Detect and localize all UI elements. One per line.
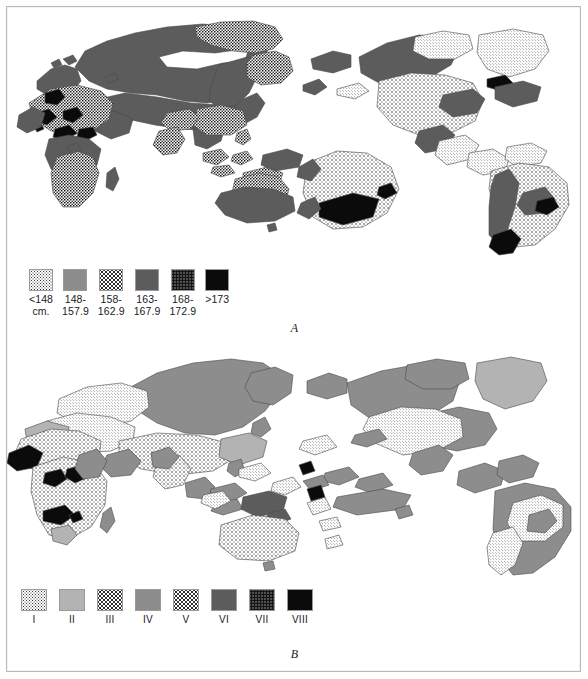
legend-b-item-1[interactable]: I bbox=[21, 589, 47, 626]
legend-b-label-5: V bbox=[183, 614, 190, 626]
map-b-svg bbox=[7, 343, 582, 583]
legend-b-label-8: VIII bbox=[292, 614, 308, 626]
swatch-coarse-stipple-alt-icon bbox=[173, 589, 199, 611]
world-map-classification bbox=[7, 343, 582, 583]
legend-a-item-1[interactable]: <148 cm. bbox=[29, 269, 53, 317]
region-greenland-stipple bbox=[477, 29, 549, 77]
region-madagascar bbox=[106, 167, 119, 191]
figure-frame: <148 cm. 148- 157.9 158- 162.9 163- 167.… bbox=[6, 6, 581, 672]
swatch-coarse-stipple-icon bbox=[99, 269, 123, 291]
swatch-fine-stipple-icon bbox=[21, 589, 47, 611]
swatch-black-icon bbox=[205, 269, 229, 291]
region-pacific-b-stipple-04 bbox=[325, 535, 343, 549]
legend-b-label-4: IV bbox=[143, 614, 153, 626]
legend-a: <148 cm. 148- 157.9 158- 162.9 163- 167.… bbox=[29, 269, 229, 317]
legend-a-label-5: 168- 172.9 bbox=[169, 294, 196, 317]
region-madagascar-b bbox=[100, 507, 115, 533]
legend-a-item-2[interactable]: 148- 157.9 bbox=[62, 269, 89, 317]
region-southern-africa bbox=[51, 151, 99, 207]
region-pacific-b-black-01 bbox=[299, 461, 315, 475]
swatch-mid-gray-icon bbox=[135, 589, 161, 611]
legend-b-label-6: VI bbox=[219, 614, 229, 626]
region-canada-arctic-stipple bbox=[413, 31, 473, 59]
region-australia-stipple-b bbox=[219, 515, 299, 561]
swatch-dense-stipple-icon bbox=[171, 269, 195, 291]
region-pacific-b-midgray-02 bbox=[323, 467, 359, 485]
swatch-dark-gray-icon bbox=[135, 269, 159, 291]
region-pacific-islet-a bbox=[303, 79, 327, 95]
panel-a: <148 cm. 148- 157.9 158- 162.9 163- 167.… bbox=[7, 7, 582, 343]
region-tasmania-b bbox=[263, 561, 275, 571]
region-pacific-islet-b bbox=[337, 83, 369, 99]
legend-a-label-1: <148 cm. bbox=[29, 294, 53, 317]
region-arctic-stipple bbox=[247, 51, 293, 85]
panel-b: I II III IV V VI bbox=[7, 343, 582, 671]
swatch-mid-gray-icon bbox=[63, 269, 87, 291]
region-northeast-asia bbox=[245, 367, 293, 405]
legend-a-item-6[interactable]: >173 bbox=[205, 269, 229, 306]
legend-b-label-2: II bbox=[69, 614, 75, 626]
swatch-dark-gray-icon bbox=[211, 589, 237, 611]
swatch-black-icon bbox=[287, 589, 313, 611]
panel-b-letter: B bbox=[7, 647, 582, 662]
region-pacific-b-stipple-01 bbox=[299, 435, 337, 455]
region-caribbean-b bbox=[497, 455, 539, 483]
region-papua-gray bbox=[261, 149, 303, 171]
region-caribbean-stipple bbox=[505, 143, 547, 167]
region-indonesia-02 bbox=[231, 151, 253, 165]
region-alaska-gray bbox=[311, 51, 351, 73]
legend-b-label-7: VII bbox=[255, 614, 268, 626]
region-canada-arctic-b bbox=[405, 359, 469, 389]
region-indonesia-03 bbox=[211, 165, 235, 177]
map-a-svg bbox=[7, 7, 582, 259]
region-tasmania bbox=[267, 223, 277, 232]
swatch-dense-stipple-icon bbox=[249, 589, 275, 611]
region-pacific-isl-b bbox=[271, 477, 301, 495]
legend-a-item-5[interactable]: 168- 172.9 bbox=[169, 269, 196, 317]
region-greenland-b bbox=[475, 357, 547, 409]
swatch-fine-stipple-icon bbox=[29, 269, 53, 291]
legend-a-item-4[interactable]: 163- 167.9 bbox=[134, 269, 161, 317]
region-indonesia-01 bbox=[203, 149, 229, 165]
legend-b-item-7[interactable]: VII bbox=[249, 589, 275, 626]
legend-a-item-3[interactable]: 158- 162.9 bbox=[98, 269, 125, 317]
legend-b-item-6[interactable]: VI bbox=[211, 589, 237, 626]
region-pacific-b-stipple-03 bbox=[319, 517, 341, 531]
legend-b-item-3[interactable]: III bbox=[97, 589, 123, 626]
legend-b: I II III IV V VI bbox=[21, 589, 313, 626]
legend-b-item-5[interactable]: V bbox=[173, 589, 199, 626]
legend-a-label-4: 163- 167.9 bbox=[134, 294, 161, 317]
legend-b-item-4[interactable]: IV bbox=[135, 589, 161, 626]
world-map-stature-distribution bbox=[7, 7, 582, 259]
legend-a-label-2: 148- 157.9 bbox=[62, 294, 89, 317]
legend-b-item-8[interactable]: VIII bbox=[287, 589, 313, 626]
region-japan-midgray bbox=[251, 417, 271, 437]
region-alaska-b bbox=[307, 373, 347, 399]
region-asia-east-lightgray bbox=[219, 433, 267, 465]
region-island-01 bbox=[63, 55, 77, 65]
region-micronesia-stipple bbox=[239, 463, 271, 481]
swatch-light-gray-icon bbox=[59, 589, 85, 611]
region-india-stipple bbox=[153, 127, 185, 155]
legend-b-item-2[interactable]: II bbox=[59, 589, 85, 626]
legend-a-label-6: >173 bbox=[205, 294, 229, 306]
legend-a-label-3: 158- 162.9 bbox=[98, 294, 125, 317]
swatch-coarse-stipple-icon bbox=[97, 589, 123, 611]
legend-b-label-1: I bbox=[32, 614, 35, 626]
region-philippines bbox=[235, 129, 251, 145]
legend-b-label-3: III bbox=[105, 614, 114, 626]
panel-a-letter: A bbox=[7, 321, 582, 336]
